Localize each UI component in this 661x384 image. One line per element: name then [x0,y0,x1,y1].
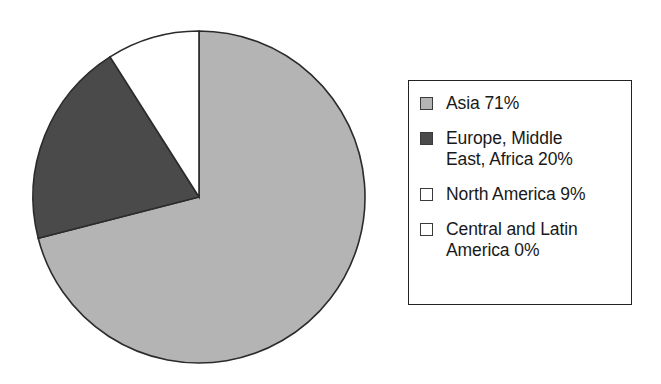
legend-item-label: Central and Latin America 0% [446,219,578,261]
legend-item[interactable]: North America 9% [409,184,631,205]
legend-item[interactable]: Central and Latin America 0% [409,219,631,261]
legend-item-label: Asia 71% [446,93,519,114]
legend-swatch-north-america [420,188,433,201]
legend-swatch-asia [420,97,433,110]
legend-list: Asia 71%Europe, Middle East, Africa 20%N… [409,93,631,261]
legend-item-label: North America 9% [446,184,585,205]
legend-item[interactable]: Europe, Middle East, Africa 20% [409,128,631,170]
legend-item-label: Europe, Middle East, Africa 20% [446,128,573,170]
legend-item[interactable]: Asia 71% [409,93,631,114]
pie-slices-group [33,31,365,363]
legend-box: Asia 71%Europe, Middle East, Africa 20%N… [408,80,632,305]
legend-swatch-europe-middle-east-africa [420,132,433,145]
legend-swatch-central-and-latin-america [420,223,433,236]
